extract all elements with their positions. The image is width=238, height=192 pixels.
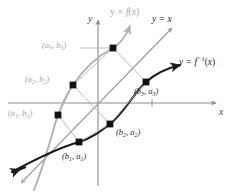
point-marker-a2b2 xyxy=(70,82,77,89)
connector-a1b1-b1a1 xyxy=(58,115,79,142)
inverse-curve-label: y = f−1(x) xyxy=(179,58,215,68)
point-marker-b1a1 xyxy=(76,139,83,146)
point-marker-b3a3 xyxy=(143,79,150,86)
function-label-text: y xyxy=(110,7,115,17)
point-label-a3b3: (a3, b3) xyxy=(42,41,66,50)
connector-a2b2-b2a2 xyxy=(73,85,110,124)
connector-a3b3-b3a3 xyxy=(113,48,146,82)
function-curve-label: y = f(x) xyxy=(110,8,139,18)
connector-side-left-lower xyxy=(58,85,73,115)
identity-line-label: y = x xyxy=(152,15,172,25)
point-marker-a1b1 xyxy=(55,112,62,119)
point-label-b2a2: (b2, a2) xyxy=(116,128,140,137)
x-axis-label: x xyxy=(219,107,223,117)
figure-canvas xyxy=(0,0,238,192)
point-label-b3a3: (b3, a3) xyxy=(134,87,158,96)
point-label-a1b1: (a1, b1) xyxy=(8,109,32,118)
point-label-a2b2: (a2, b2) xyxy=(25,75,49,84)
inverse-function-figure: y x y = f(x) y = x y = f−1(x) (a3, b3) (… xyxy=(0,0,238,192)
point-label-b1a1: (b1, a1) xyxy=(62,152,86,161)
point-marker-b2a2 xyxy=(107,121,114,128)
connector-side-right-lower xyxy=(79,124,110,142)
point-marker-a3b3 xyxy=(110,45,117,52)
connector-side-left-upper xyxy=(73,48,113,85)
y-axis-label: y xyxy=(88,14,92,24)
